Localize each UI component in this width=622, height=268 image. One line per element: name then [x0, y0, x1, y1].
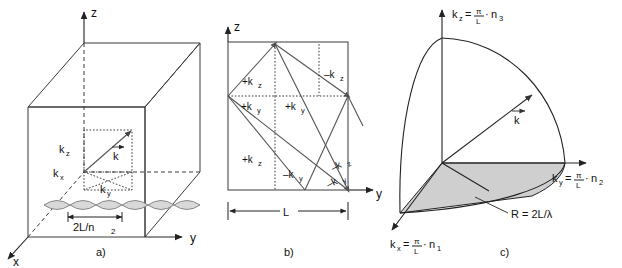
axis-kz-lhs-sub: z	[459, 14, 463, 23]
axis-kz-dot: ·	[485, 8, 489, 20]
axis-ky-lhs: k	[552, 172, 558, 184]
dimension-L-label: L	[283, 206, 289, 218]
panel-c: k z = π L · n 3 k y = π L · n 2	[380, 0, 622, 268]
panel-b: z y	[200, 0, 390, 268]
panel-b-drawing: z y	[200, 0, 390, 268]
axis-ky-den: L	[576, 181, 581, 190]
axis-y-label: y	[190, 231, 196, 245]
axis-z: z	[84, 6, 97, 43]
svg-text:–k: –k	[324, 175, 339, 190]
axis-kz-rhs: n	[491, 8, 497, 20]
ray-label-minus-ky-lower-mid: –k y	[283, 169, 303, 183]
svg-text:+k: +k	[242, 76, 254, 87]
label-k-vector: k	[112, 147, 124, 162]
svg-text:+k: +k	[242, 154, 254, 165]
svg-text:z: z	[258, 81, 262, 90]
svg-text:–k: –k	[324, 69, 336, 80]
axis-kx-num: π	[414, 237, 420, 246]
panel-a-drawing: z y x k z	[0, 0, 210, 268]
dimension-L: L	[228, 202, 348, 220]
svg-text:–k: –k	[329, 158, 344, 173]
svg-text:x: x	[60, 173, 64, 182]
ray-label-plus-kz-upper-left: +k z	[242, 76, 262, 90]
svg-text:y: y	[107, 189, 111, 198]
axis-kz-eq: =	[465, 8, 471, 20]
base-quarter-disc	[400, 163, 565, 213]
axis-kx-eq: =	[403, 238, 409, 250]
svg-text:k: k	[59, 143, 65, 155]
svg-text:z: z	[340, 74, 344, 83]
svg-text:k: k	[100, 183, 106, 195]
svg-text:y: y	[301, 106, 305, 115]
svg-text:y: y	[341, 175, 349, 185]
radius-label: R = 2L/λ	[511, 208, 553, 220]
axis-ky-eq: =	[565, 172, 571, 184]
label-kz: k z	[59, 143, 70, 158]
svg-text:–k: –k	[283, 169, 295, 180]
svg-text:z: z	[258, 159, 262, 168]
axis-kz-num: π	[476, 7, 482, 16]
k-vector-construction	[84, 130, 132, 190]
svg-text:+k: +k	[285, 101, 297, 112]
axis-ky-num: π	[576, 171, 582, 180]
axis-y: y	[145, 231, 196, 245]
k-vector: k	[442, 95, 532, 163]
standing-wave-lobes	[44, 201, 200, 210]
axis-ky-rhs-sub: 2	[599, 178, 603, 187]
axis-kx-rhs: n	[429, 238, 435, 250]
axis-z: z	[228, 20, 240, 42]
svg-text:2L/n: 2L/n	[73, 221, 94, 233]
axis-kz-lhs: k	[452, 8, 458, 20]
svg-text:2: 2	[111, 227, 116, 236]
axis-z-label: z	[91, 6, 97, 20]
axis-z-label: z	[234, 20, 240, 34]
k-vector-arrow	[84, 131, 131, 172]
svg-text:k: k	[113, 150, 119, 162]
panel-c-drawing: k z = π L · n 3 k y = π L · n 2	[380, 0, 622, 268]
axis-ky-rhs: n	[591, 172, 597, 184]
dimension-2L-over-n2: 2L/n 2	[68, 212, 122, 236]
svg-text:y: y	[257, 106, 261, 115]
axis-kz-den: L	[476, 17, 481, 26]
svg-text:k: k	[53, 167, 59, 179]
label-kx: k x	[53, 167, 64, 182]
axis-y: y	[348, 187, 382, 201]
axis-kx-lhs-sub: x	[397, 244, 401, 253]
axis-ky-dot: ·	[585, 172, 589, 184]
figure-root: z y x k z	[0, 0, 622, 268]
svg-text:y: y	[299, 174, 303, 183]
panel-c-caption: c)	[500, 246, 509, 258]
axis-kx-dot: ·	[423, 238, 427, 250]
axis-kx-lhs: k	[390, 238, 396, 250]
svg-text:z: z	[345, 159, 353, 169]
ray-label-plus-kz-lower-left: +k z	[242, 154, 262, 168]
ray-label-plus-ky-left: +k y	[241, 101, 261, 115]
axis-kx-rhs-sub: 1	[437, 244, 441, 253]
panel-a-caption: a)	[96, 246, 106, 258]
axis-x-label: x	[13, 255, 19, 268]
axis-ky-lhs-sub: y	[559, 178, 563, 187]
svg-text:+k: +k	[241, 101, 253, 112]
axis-kx-den: L	[414, 247, 419, 256]
axis-x: x	[8, 237, 28, 268]
axis-kz-rhs-sub: 3	[499, 14, 503, 23]
panel-a: z y x k z	[0, 0, 210, 268]
panel-b-caption: b)	[284, 246, 294, 258]
svg-text:z: z	[66, 149, 70, 158]
k-vector-label: k	[514, 114, 520, 126]
ray-label-plus-ky-mid: +k y	[285, 101, 305, 115]
